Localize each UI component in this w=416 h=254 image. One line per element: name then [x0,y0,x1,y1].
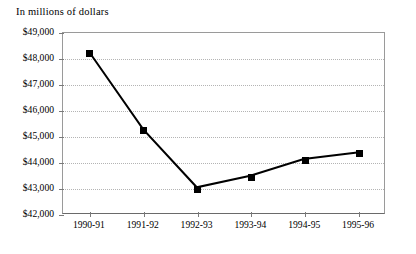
data-point-marker [248,174,255,181]
y-axis-tick-label: $48,000 [0,53,54,63]
data-point-marker [302,157,309,164]
y-axis-tick-label: $46,000 [0,105,54,115]
y-axis-tick-label: $44,000 [0,157,54,167]
y-axis-tick-label: $45,000 [0,131,54,141]
y-axis-tick-label: $42,000 [0,209,54,219]
y-axis-tick-label: $47,000 [0,79,54,89]
chart-container: In millions of dollars $42,000$43,000$44… [0,0,416,254]
chart-title: In millions of dollars [16,6,109,18]
data-point-marker [194,186,201,193]
series-polyline [90,53,357,187]
data-point-marker [140,127,147,134]
data-point-marker [86,50,93,57]
series-line [63,33,384,213]
x-axis-tick-label: 1995-96 [323,219,393,230]
data-point-marker [356,150,363,157]
y-axis-tick [59,215,64,216]
x-axis-labels: 1990-911991-921992-931993-941994-951995-… [62,219,385,239]
y-axis-tick-label: $49,000 [0,27,54,37]
y-axis-tick-label: $43,000 [0,183,54,193]
plot-area [62,32,385,214]
